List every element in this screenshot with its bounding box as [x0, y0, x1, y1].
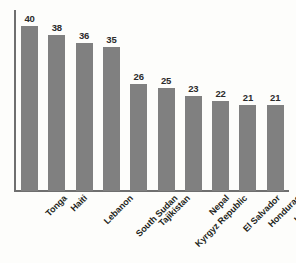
- bar: [103, 47, 120, 191]
- bar-value-label: 22: [207, 88, 234, 99]
- bar-group: 23: [180, 10, 207, 191]
- bar-value-label: 23: [180, 83, 207, 94]
- bar-value-label: 38: [43, 22, 70, 33]
- bars-layer: 40383635262523222121: [16, 10, 289, 191]
- category-labels-layer: TongaHaitiLebanonSouth SudanTajikistanKy…: [16, 193, 289, 263]
- bar-value-label: 26: [125, 71, 152, 82]
- bar-value-label: 40: [16, 13, 43, 24]
- bar: [212, 101, 229, 192]
- bar-group: 22: [207, 10, 234, 191]
- bar-group: 38: [43, 10, 70, 191]
- bar-group: 26: [125, 10, 152, 191]
- bar-group: 21: [234, 10, 261, 191]
- bar-chart: 40383635262523222121 TongaHaitiLebanonSo…: [0, 0, 296, 263]
- bar-group: 25: [153, 10, 180, 191]
- bar-value-label: 21: [234, 92, 261, 103]
- bar: [48, 35, 65, 191]
- bar: [130, 84, 147, 191]
- bar-group: 21: [262, 10, 289, 191]
- bar: [239, 105, 256, 191]
- category-label: Tonga: [44, 193, 69, 218]
- bar-value-label: 36: [71, 30, 98, 41]
- bar-group: 40: [16, 10, 43, 191]
- bar: [21, 26, 38, 191]
- category-label: Haiti: [69, 193, 90, 214]
- bar-value-label: 21: [262, 92, 289, 103]
- bar-group: 35: [98, 10, 125, 191]
- bar: [158, 88, 175, 191]
- bar-value-label: 25: [153, 75, 180, 86]
- bar-group: 36: [71, 10, 98, 191]
- bar: [185, 96, 202, 191]
- bar-value-label: 35: [98, 34, 125, 45]
- category-label: Lebanon: [101, 193, 134, 226]
- bar: [76, 43, 93, 191]
- bar: [267, 105, 284, 191]
